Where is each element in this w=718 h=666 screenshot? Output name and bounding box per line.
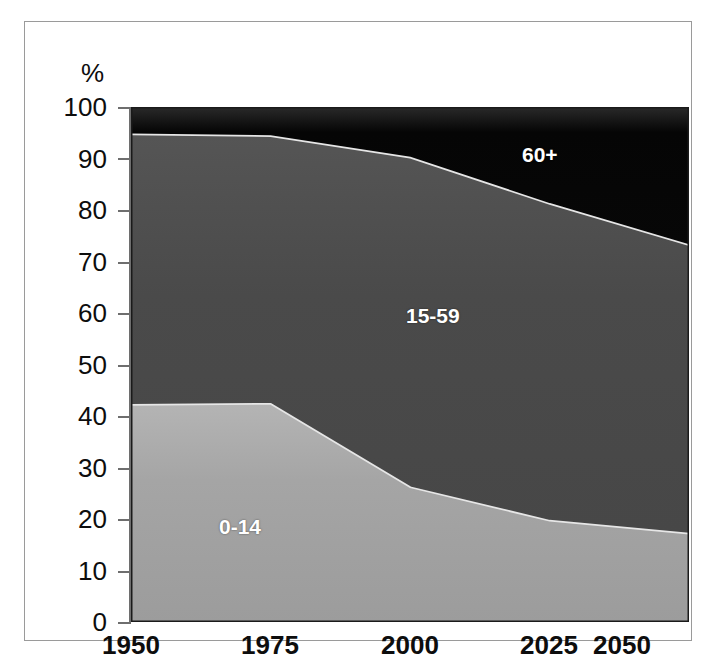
y-tick-label-10: 10 [45,558,107,584]
y-tick-label-20: 20 [45,506,107,532]
x-tick-label-2000: 2000 [350,632,470,658]
y-axis-unit-label: % [81,60,104,86]
series-label-15-59: 15-59 [406,305,460,326]
y-tick-mark-30 [118,468,129,470]
y-tick-label-40: 40 [45,403,107,429]
y-tick-mark-20 [118,519,129,521]
x-tick-label-1950: 1950 [71,632,191,658]
y-tick-mark-80 [118,210,129,212]
y-tick-mark-60 [118,313,129,315]
stacked-area-svg [131,107,689,622]
series-label-0-14: 0-14 [219,516,261,537]
y-tick-label-50: 50 [45,352,107,378]
x-tick-label-1975: 1975 [210,632,330,658]
y-tick-mark-70 [118,262,129,264]
chart-page: % 100 90 80 70 60 50 40 30 20 10 0 [0,0,718,666]
plot-area [131,107,689,622]
y-tick-mark-50 [118,365,129,367]
y-tick-label-30: 30 [45,455,107,481]
x-tick-label-2050: 2050 [562,632,682,658]
y-tick-label-100: 100 [45,94,107,120]
y-tick-mark-40 [118,416,129,418]
y-tick-mark-100 [118,107,129,109]
y-tick-label-80: 80 [45,197,107,223]
y-tick-label-70: 70 [45,249,107,275]
y-tick-mark-90 [118,158,129,160]
y-tick-label-90: 90 [45,146,107,172]
chart-frame: % 100 90 80 70 60 50 40 30 20 10 0 [24,21,692,641]
y-tick-mark-0 [118,622,129,624]
y-tick-mark-10 [118,571,129,573]
y-tick-label-60: 60 [45,300,107,326]
series-label-60-plus: 60+ [522,144,558,165]
